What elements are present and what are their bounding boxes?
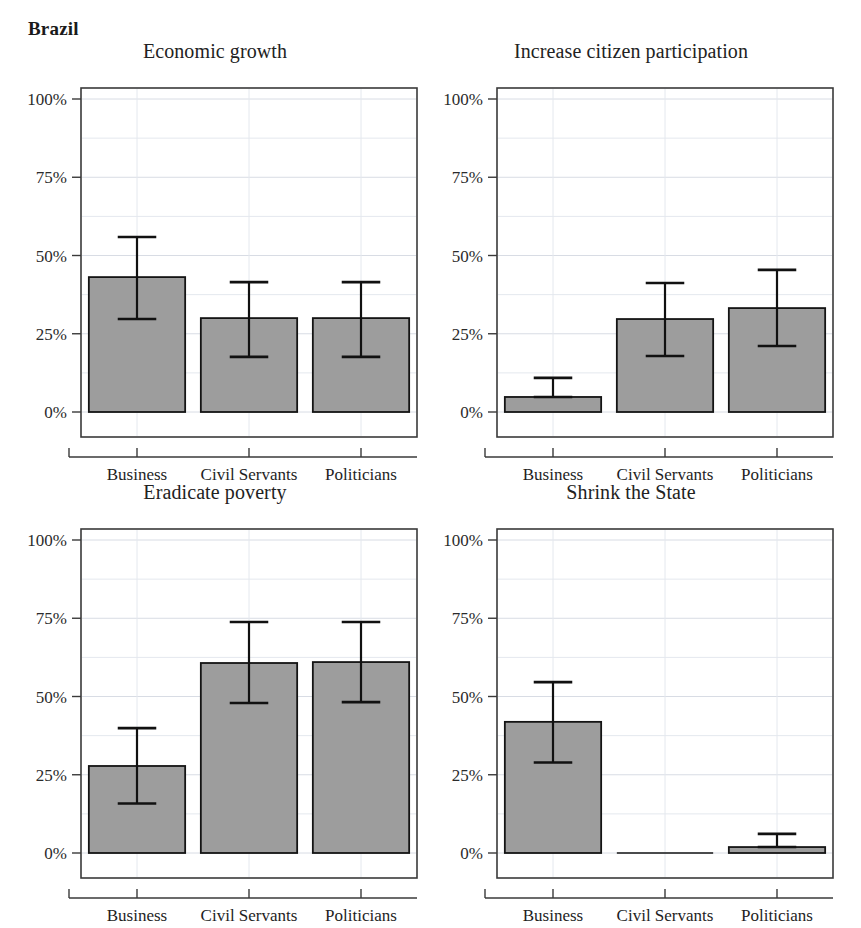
y-tick-label: 25% <box>36 766 67 785</box>
y-tick-label: 100% <box>27 531 67 550</box>
y-tick-label: 100% <box>27 90 67 109</box>
panel-eradicate-poverty: Eradicate poverty 0%25%50%75%100%Busines… <box>0 481 430 921</box>
panel-increase-citizen-participation: Increase citizen participation 0%25%50%7… <box>416 40 846 480</box>
y-tick-label: 0% <box>44 403 67 422</box>
y-tick-label: 50% <box>452 247 483 266</box>
plot-eradicate-poverty: 0%25%50%75%100%BusinessCivil ServantsPol… <box>0 481 430 921</box>
y-tick-label: 0% <box>460 403 483 422</box>
y-tick-label: 100% <box>443 90 483 109</box>
x-tick-label: Civil Servants <box>617 465 714 480</box>
y-tick-label: 25% <box>452 325 483 344</box>
x-tick-label: Civil Servants <box>617 906 714 921</box>
plot-increase-citizen-participation: 0%25%50%75%100%BusinessCivil ServantsPol… <box>416 40 846 480</box>
y-tick-label: 75% <box>36 168 67 187</box>
y-tick-label: 0% <box>460 844 483 863</box>
y-tick-label: 75% <box>452 168 483 187</box>
x-tick-label: Politicians <box>741 906 813 921</box>
x-tick-label: Politicians <box>325 906 397 921</box>
x-tick-label: Business <box>107 465 167 480</box>
plot-shrink-the-state: 0%25%50%75%100%BusinessCivil ServantsPol… <box>416 481 846 921</box>
figure-root: Brazil Economic growth 0%25%50%75%100%Bu… <box>0 0 861 928</box>
y-tick-label: 75% <box>36 609 67 628</box>
y-tick-label: 50% <box>36 247 67 266</box>
page-title: Brazil <box>28 18 79 40</box>
y-tick-label: 25% <box>36 325 67 344</box>
plot-economic-growth: 0%25%50%75%100%BusinessCivil ServantsPol… <box>0 40 430 480</box>
panel-economic-growth: Economic growth 0%25%50%75%100%BusinessC… <box>0 40 430 480</box>
x-tick-label: Civil Servants <box>201 465 298 480</box>
x-tick-label: Business <box>523 906 583 921</box>
y-tick-label: 50% <box>36 688 67 707</box>
x-tick-label: Business <box>107 906 167 921</box>
y-tick-label: 100% <box>443 531 483 550</box>
panel-shrink-the-state: Shrink the State 0%25%50%75%100%Business… <box>416 481 846 921</box>
y-tick-label: 75% <box>452 609 483 628</box>
y-tick-label: 50% <box>452 688 483 707</box>
bar <box>505 397 601 412</box>
x-tick-label: Politicians <box>325 465 397 480</box>
y-tick-label: 0% <box>44 844 67 863</box>
y-tick-label: 25% <box>452 766 483 785</box>
x-tick-label: Business <box>523 465 583 480</box>
x-tick-label: Politicians <box>741 465 813 480</box>
x-tick-label: Civil Servants <box>201 906 298 921</box>
